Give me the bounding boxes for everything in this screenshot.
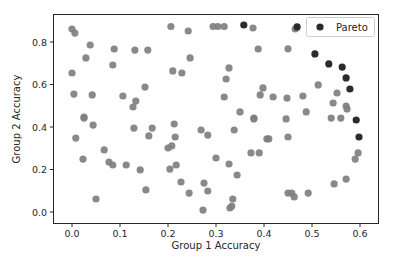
- scatter-chart: 0.00.10.20.30.40.50.6 0.00.20.40.60.8 Gr…: [0, 0, 396, 264]
- data-points: [68, 21, 362, 213]
- y-axis-ticks: 0.00.20.40.60.8: [32, 37, 54, 218]
- model-point: [225, 64, 232, 71]
- model-point: [89, 91, 96, 98]
- model-point: [171, 120, 178, 127]
- model-point: [109, 161, 116, 168]
- y-tick-label: 0.6: [32, 79, 47, 90]
- model-point: [173, 161, 180, 168]
- model-point: [305, 190, 312, 197]
- pareto-point: [240, 21, 247, 28]
- model-point: [299, 92, 306, 99]
- model-point: [303, 108, 310, 115]
- model-point: [166, 166, 173, 173]
- model-point: [185, 27, 192, 34]
- pareto-point: [294, 23, 301, 30]
- model-point: [111, 45, 118, 52]
- model-point: [221, 23, 228, 30]
- model-point: [186, 190, 193, 197]
- model-point: [131, 47, 138, 54]
- pareto-point: [325, 60, 332, 67]
- model-point: [149, 125, 156, 132]
- model-point: [87, 41, 94, 48]
- model-point: [172, 133, 179, 140]
- pareto-point: [346, 85, 353, 92]
- model-point: [101, 146, 108, 153]
- pareto-point: [353, 116, 360, 123]
- model-point: [71, 29, 78, 36]
- model-point: [257, 91, 264, 98]
- model-point: [72, 135, 79, 142]
- x-tick-label: 0.3: [208, 228, 223, 239]
- model-point: [343, 176, 350, 183]
- model-point: [129, 103, 136, 110]
- model-point: [199, 207, 206, 214]
- model-point: [263, 135, 270, 142]
- model-point: [167, 23, 174, 30]
- model-point: [119, 92, 126, 99]
- model-point: [315, 81, 322, 88]
- model-point: [337, 115, 344, 122]
- x-tick-label: 0.4: [256, 228, 271, 239]
- legend-marker-icon: [316, 23, 323, 30]
- model-point: [142, 186, 149, 193]
- model-point: [225, 160, 232, 167]
- pareto-point: [339, 64, 346, 71]
- model-point: [249, 24, 256, 31]
- model-point: [79, 156, 86, 163]
- model-point: [109, 61, 116, 68]
- legend-label-pareto: Pareto: [336, 22, 368, 33]
- model-point: [333, 89, 340, 96]
- model-point: [226, 204, 233, 211]
- model-point: [291, 193, 298, 200]
- model-point: [82, 54, 89, 61]
- model-point: [283, 95, 290, 102]
- x-tick-label: 0.0: [64, 228, 79, 239]
- model-point: [284, 45, 291, 52]
- y-axis-label: Group 2 Accuracy: [11, 75, 22, 164]
- pareto-point: [355, 133, 362, 140]
- model-point: [328, 115, 335, 122]
- model-point: [283, 115, 290, 122]
- model-point: [130, 125, 137, 132]
- y-tick-label: 0.2: [32, 164, 47, 175]
- model-point: [187, 54, 194, 61]
- model-point: [343, 102, 350, 109]
- model-point: [204, 187, 211, 194]
- model-point: [141, 84, 148, 91]
- model-point: [68, 69, 75, 76]
- model-point: [80, 115, 87, 122]
- model-point: [255, 45, 262, 52]
- model-point: [198, 126, 205, 133]
- y-tick-label: 0.8: [32, 37, 47, 48]
- model-point: [247, 149, 254, 156]
- x-axis-ticks: 0.00.10.20.30.40.50.6: [64, 224, 367, 240]
- model-point: [229, 195, 236, 202]
- model-point: [236, 108, 243, 115]
- model-point: [270, 93, 277, 100]
- model-point: [221, 93, 228, 100]
- model-point: [123, 161, 130, 168]
- model-point: [234, 171, 241, 178]
- legend: Pareto: [307, 18, 375, 37]
- model-point: [204, 132, 211, 139]
- model-point: [352, 156, 359, 163]
- x-tick-label: 0.6: [352, 228, 367, 239]
- model-point: [284, 133, 291, 140]
- model-point: [223, 75, 230, 82]
- model-point: [177, 178, 184, 185]
- model-point: [355, 149, 362, 156]
- model-point: [144, 47, 151, 54]
- pareto-point: [343, 74, 350, 81]
- y-tick-label: 0.4: [32, 122, 47, 133]
- y-tick-label: 0.0: [32, 207, 47, 218]
- model-point: [250, 115, 257, 122]
- model-point: [168, 142, 175, 149]
- model-point: [169, 67, 176, 74]
- model-point: [70, 91, 77, 98]
- pareto-point: [311, 50, 318, 57]
- model-point: [259, 84, 266, 91]
- model-point: [90, 122, 97, 129]
- x-tick-label: 0.5: [304, 228, 319, 239]
- x-axis-label: Group 1 Accuracy: [172, 240, 261, 251]
- model-point: [231, 126, 238, 133]
